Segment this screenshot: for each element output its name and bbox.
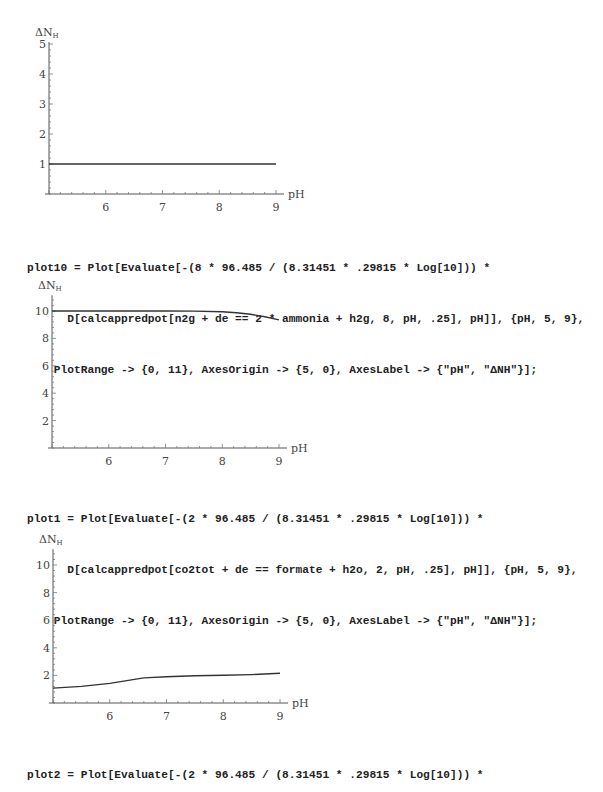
y-tick-label: 8 <box>43 587 50 600</box>
y-tick-label: 4 <box>39 68 46 81</box>
x-tick-label: 8 <box>219 455 226 468</box>
y-tick-label: 6 <box>43 614 50 627</box>
x-axis-label: pH <box>292 697 309 710</box>
x-tick-label: 9 <box>273 201 280 214</box>
y-tick-label: 2 <box>39 128 46 141</box>
plot-2-svg: 6789246810pHΔNH <box>0 270 340 470</box>
plot-1: 678912345pHΔNH <box>0 0 340 215</box>
x-tick-label: 6 <box>105 455 112 468</box>
y-tick-label: 3 <box>39 98 46 111</box>
y-axis-label: ΔNH <box>39 533 63 547</box>
x-tick-label: 6 <box>106 710 113 720</box>
series-line <box>52 311 279 320</box>
x-axis-label: pH <box>291 442 308 455</box>
y-tick-label: 5 <box>39 38 46 51</box>
y-tick-label: 4 <box>43 642 50 655</box>
plot-1-svg: 678912345pHΔNH <box>0 0 340 215</box>
series-line <box>53 673 280 688</box>
x-tick-label: 7 <box>162 455 169 468</box>
x-tick-label: 7 <box>159 201 166 214</box>
x-tick-label: 9 <box>277 710 284 720</box>
y-tick-label: 1 <box>39 158 46 171</box>
x-tick-label: 9 <box>276 455 283 468</box>
plot-3: 6789246810pHΔNH <box>0 520 340 720</box>
y-axis-label: ΔNH <box>35 26 59 40</box>
x-tick-label: 8 <box>216 201 223 214</box>
y-tick-label: 6 <box>42 360 49 373</box>
y-tick-label: 4 <box>42 387 49 400</box>
y-axis-label: ΔNH <box>38 279 62 293</box>
x-axis-label: pH <box>288 188 305 201</box>
code-block-plot2: plot2 = Plot[Evaluate[-(2 * 96.485 / (8.… <box>0 733 603 792</box>
plot-2: 6789246810pHΔNH <box>0 270 340 470</box>
x-tick-label: 8 <box>220 710 227 720</box>
y-tick-label: 2 <box>43 669 50 682</box>
plot-3-svg: 6789246810pHΔNH <box>0 520 340 720</box>
x-tick-label: 7 <box>163 710 170 720</box>
x-tick-label: 6 <box>102 201 109 214</box>
code-line: plot2 = Plot[Evaluate[-(2 * 96.485 / (8.… <box>0 767 603 784</box>
y-tick-label: 8 <box>42 332 49 345</box>
y-tick-label: 2 <box>42 415 49 428</box>
y-tick-label: 10 <box>36 559 50 572</box>
y-tick-label: 10 <box>35 305 49 318</box>
